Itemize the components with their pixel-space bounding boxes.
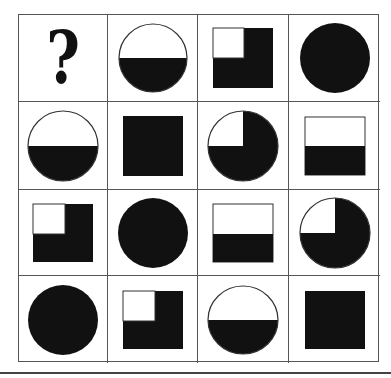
circle-bottom-half-filled-icon (207, 285, 279, 355)
cell-r2-c1 (19, 102, 108, 190)
circle-three-quarter-filled-icon (299, 197, 371, 269)
cell-r1-c2 (108, 15, 198, 102)
cell-r4-c3 (198, 276, 289, 363)
cell-r2-c3 (198, 102, 289, 190)
cell-r3-c2 (108, 190, 198, 276)
cell-r3-c1 (19, 190, 108, 276)
circle-filled-icon (117, 197, 189, 269)
cell-r4-c1 (19, 276, 108, 363)
puzzle-grid: ? (18, 14, 379, 362)
cell-r3-c4 (289, 190, 380, 276)
cell-r1-c3 (198, 15, 289, 102)
circle-filled-icon (27, 284, 99, 356)
square-bottom-half-filled-icon (212, 203, 274, 263)
bottom-divider (0, 372, 391, 374)
square-three-quarter-filled-icon (32, 203, 94, 263)
cell-r1-c1[interactable]: ? (19, 15, 108, 102)
circle-bottom-half-filled-icon (118, 23, 188, 93)
cell-r4-c2 (108, 276, 198, 363)
cell-r1-c4 (289, 15, 380, 102)
cell-r2-c2 (108, 102, 198, 190)
cell-r4-c4 (289, 276, 380, 363)
circle-bottom-half-filled-icon (27, 110, 99, 182)
square-three-quarter-filled-icon (122, 290, 184, 350)
square-three-quarter-filled-icon (212, 27, 274, 89)
square-filled-icon (305, 291, 365, 349)
cell-r2-c4 (289, 102, 380, 190)
question-mark-icon: ? (46, 22, 80, 94)
circle-filled-icon (299, 22, 371, 94)
cell-r3-c3 (198, 190, 289, 276)
square-bottom-half-filled-icon (304, 116, 366, 176)
circle-three-quarter-filled-icon (207, 110, 279, 182)
square-filled-icon (123, 116, 183, 176)
